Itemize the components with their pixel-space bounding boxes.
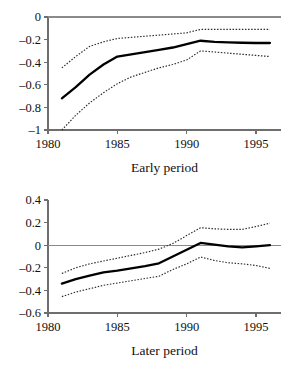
figure-root: 0–0.2–0.4–0.6–0.8–11980198519901995Early… bbox=[0, 0, 292, 366]
x-axis-title: Early period bbox=[131, 160, 198, 175]
x-tick-label: 1995 bbox=[244, 137, 269, 151]
x-axis-title: Later period bbox=[131, 343, 198, 358]
chart-plot-later: 0.40.20–0.2–0.4–0.61980198519901995Later… bbox=[18, 193, 281, 358]
chart-panel-early-period: 0–0.2–0.4–0.6–0.8–11980198519901995Early… bbox=[0, 0, 292, 183]
y-tick-label: –0.6 bbox=[18, 78, 41, 92]
y-tick-label: 0 bbox=[35, 239, 41, 253]
x-tick-label: 1990 bbox=[174, 137, 199, 151]
x-tick-label: 1995 bbox=[244, 320, 269, 334]
x-tick-label: 1990 bbox=[174, 320, 199, 334]
chart-svg-early-period: 0–0.2–0.4–0.6–0.8–11980198519901995Early… bbox=[0, 0, 292, 183]
y-tick-label: –0.6 bbox=[18, 306, 41, 320]
series-lower-confidence-band bbox=[62, 257, 270, 297]
x-tick-label: 1980 bbox=[36, 320, 61, 334]
chart-panel-later-period: 0.40.20–0.2–0.4–0.61980198519901995Later… bbox=[0, 183, 292, 366]
y-tick-label: –0.4 bbox=[18, 56, 42, 70]
y-tick-label: 0.2 bbox=[25, 216, 41, 230]
y-tick-label: –0.2 bbox=[18, 261, 41, 275]
series-estimate bbox=[62, 41, 270, 99]
y-tick-label: 0 bbox=[35, 10, 41, 24]
y-tick-label: 0.4 bbox=[25, 193, 41, 207]
chart-svg-later-period: 0.40.20–0.2–0.4–0.61980198519901995Later… bbox=[0, 183, 292, 366]
y-tick-label: –0.4 bbox=[18, 284, 42, 298]
series-lower-confidence-band bbox=[62, 51, 270, 130]
y-tick-label: –0.2 bbox=[18, 33, 41, 47]
chart-plot-early: 0–0.2–0.4–0.6–0.8–11980198519901995Early… bbox=[18, 10, 281, 175]
y-tick-label: –1 bbox=[28, 123, 42, 137]
x-tick-label: 1985 bbox=[105, 320, 130, 334]
x-tick-label: 1980 bbox=[36, 137, 61, 151]
x-tick-label: 1985 bbox=[105, 137, 130, 151]
y-tick-label: –0.8 bbox=[18, 101, 41, 115]
